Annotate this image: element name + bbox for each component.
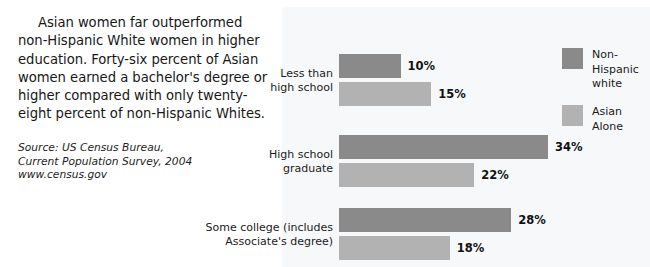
- bar-non-hispanic-white: [339, 54, 401, 78]
- category-label-line: graduate: [189, 162, 333, 176]
- bar-row: 28%: [339, 208, 650, 232]
- category-label-line: high school: [189, 81, 333, 95]
- bar-row: 18%: [339, 236, 650, 260]
- category-label-line: Less than: [189, 67, 333, 81]
- legend-item-asian-alone[interactable]: Asian Alone: [562, 105, 650, 134]
- legend-swatch-icon: [562, 48, 583, 69]
- category-label-less-than-high-school: Less than high school: [189, 67, 339, 94]
- bar-chart: Less than high school 10% 15% High schoo…: [282, 7, 650, 267]
- legend-label-non-hispanic-white: Non-Hispanic white: [592, 48, 650, 92]
- bar-row: 34%: [339, 135, 650, 159]
- bar-value-label: 22%: [474, 168, 509, 182]
- category-label-line: High school: [189, 148, 333, 162]
- category-label-line: Some college (includes: [179, 221, 333, 235]
- category-label-line: Associate's degree): [179, 235, 333, 249]
- bar-asian-alone: [339, 82, 431, 106]
- legend-label-line: Non-Hispanic: [592, 48, 639, 76]
- bar-value-label: 18%: [450, 241, 485, 255]
- bar-row: 22%: [339, 163, 650, 187]
- bar-value-label: 34%: [548, 140, 583, 154]
- bar-value-label: 15%: [431, 87, 466, 101]
- figure-statistics-education: Asian women far outperformed non-Hispani…: [0, 0, 650, 267]
- bar-asian-alone: [339, 236, 450, 260]
- bar-value-label: 28%: [511, 213, 546, 227]
- bar-non-hispanic-white: [339, 135, 548, 159]
- legend-label-asian-alone: Asian Alone: [592, 105, 650, 134]
- legend-swatch-icon: [562, 105, 583, 126]
- legend-label-line: white: [592, 77, 622, 90]
- bar-non-hispanic-white: [339, 208, 511, 232]
- category-label-some-college: Some college (includes Associate's degre…: [179, 221, 339, 248]
- bar-value-label: 10%: [401, 59, 436, 73]
- legend-item-non-hispanic-white[interactable]: Non-Hispanic white: [562, 48, 650, 92]
- bar-asian-alone: [339, 163, 474, 187]
- category-label-high-school-graduate: High school graduate: [189, 148, 339, 175]
